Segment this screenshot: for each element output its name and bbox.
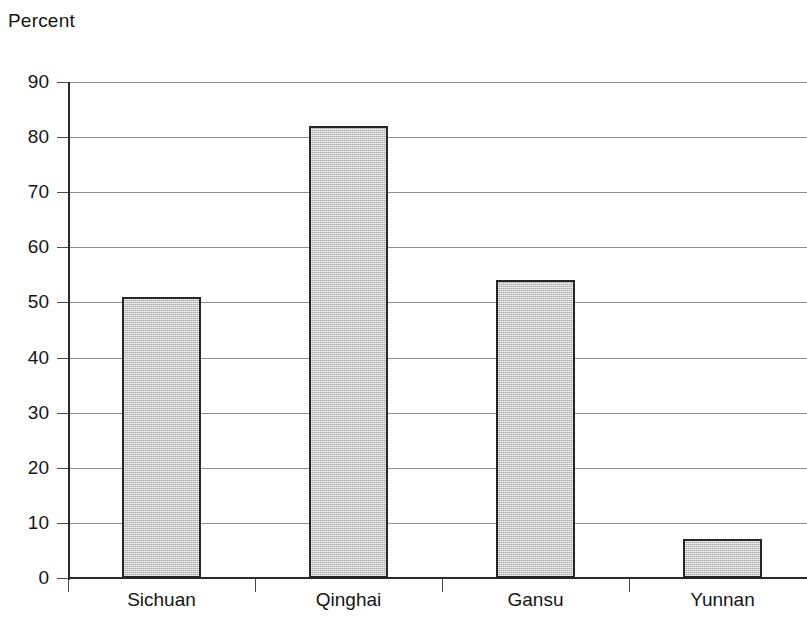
x-axis-category-label: Yunnan [629, 589, 807, 611]
y-axis-tick [57, 523, 68, 524]
y-axis-tick [57, 578, 68, 579]
y-axis-tick [57, 247, 68, 248]
y-axis-tick-label: 20 [1, 458, 49, 477]
gridline [68, 192, 807, 193]
gridline [68, 137, 807, 138]
y-axis-tick-label: 80 [1, 127, 49, 146]
y-axis-tick [57, 137, 68, 138]
bar [122, 297, 201, 578]
y-axis-tick-label: 0 [1, 568, 49, 587]
y-axis-tick [57, 82, 68, 83]
y-axis-tick-label: 50 [1, 292, 49, 311]
y-axis-tick [57, 192, 68, 193]
plot-area: 9080706050403020100 SichuanQinghaiGansuY… [0, 0, 807, 619]
y-axis-line [68, 82, 70, 580]
y-axis-tick-label: 30 [1, 403, 49, 422]
y-axis-tick-label: 60 [1, 237, 49, 256]
y-axis-tick-label: 40 [1, 348, 49, 367]
x-axis-category-label: Gansu [442, 589, 629, 611]
y-axis-tick-label: 10 [1, 513, 49, 532]
y-axis-tick [57, 468, 68, 469]
x-axis-category-label: Sichuan [68, 589, 255, 611]
y-axis-tick-label: 70 [1, 182, 49, 201]
y-axis-tick [57, 413, 68, 414]
bar [683, 539, 762, 578]
bar [496, 280, 575, 578]
y-axis-tick [57, 302, 68, 303]
x-axis-category-label: Qinghai [255, 589, 442, 611]
y-axis-tick-label: 90 [1, 72, 49, 91]
y-axis-tick [57, 358, 68, 359]
bar [309, 126, 388, 578]
gridline [68, 82, 807, 83]
gridline [68, 247, 807, 248]
